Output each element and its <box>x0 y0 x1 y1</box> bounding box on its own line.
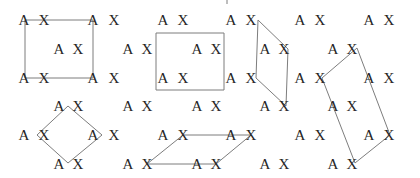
figure-canvas: AAAAAAXXXXXXAAAAAXXXXXAAAAAAXXXXXXAAAAAX… <box>0 0 420 178</box>
grid-letter-x: X <box>73 99 84 114</box>
grid-letter-a: A <box>364 71 375 86</box>
grid-letter-x: X <box>178 128 189 143</box>
grid-letter-x: X <box>347 99 358 114</box>
grid-letter-a: A <box>158 13 169 28</box>
grid-letter-a: A <box>54 157 65 172</box>
grid-letter-x: X <box>178 71 189 86</box>
grid-letter-x: X <box>109 13 120 28</box>
grid-letter-a: A <box>260 42 271 57</box>
grid-letter-a: A <box>192 42 203 57</box>
grid-letter-a: A <box>123 99 134 114</box>
grid-letter-x: X <box>142 42 153 57</box>
grid-letter-a: A <box>226 71 237 86</box>
grid-letter-a: A <box>364 128 375 143</box>
grid-letter-a: A <box>19 71 30 86</box>
grid-letter-x: X <box>347 42 358 57</box>
grid-letter-a: A <box>364 13 375 28</box>
grid-letter-a: A <box>123 157 134 172</box>
shape-narrow-parallelogram <box>256 20 288 106</box>
grid-letter-x: X <box>73 42 84 57</box>
grid-letter-x: X <box>109 128 120 143</box>
grid-letter-x: X <box>142 157 153 172</box>
grid-letter-x: X <box>142 99 153 114</box>
grid-letter-x: X <box>211 99 222 114</box>
grid-letter-x: X <box>109 71 120 86</box>
grid-letter-x: X <box>384 71 395 86</box>
grid-letter-a: A <box>88 128 99 143</box>
grid-letter-a: A <box>158 71 169 86</box>
grid-letter-x: X <box>39 128 50 143</box>
grid-letter-a: A <box>88 71 99 86</box>
grid-letter-a: A <box>328 99 339 114</box>
grid-letter-x: X <box>246 13 257 28</box>
grid-letter-x: X <box>315 128 326 143</box>
grid-letter-a: A <box>54 42 65 57</box>
grid-letter-x: X <box>315 71 326 86</box>
grid-letter-a: A <box>192 99 203 114</box>
grid-letter-a: A <box>123 42 134 57</box>
grid-letter-x: X <box>39 71 50 86</box>
grid-letter-a: A <box>226 13 237 28</box>
grid-letter-a: A <box>328 157 339 172</box>
grid-letter-x: X <box>73 157 84 172</box>
grid-letter-x: X <box>279 42 290 57</box>
grid-letter-x: X <box>211 42 222 57</box>
grid-letter-x: X <box>178 13 189 28</box>
grid-letter-x: X <box>246 71 257 86</box>
grid-letter-x: X <box>279 99 290 114</box>
grid-letter-a: A <box>19 13 30 28</box>
grid-letter-a: A <box>328 42 339 57</box>
shape-layer <box>0 0 420 178</box>
grid-letter-a: A <box>226 128 237 143</box>
grid-letter-x: X <box>384 128 395 143</box>
grid-letter-a: A <box>19 128 30 143</box>
grid-letter-x: X <box>246 128 257 143</box>
grid-letter-a: A <box>295 13 306 28</box>
grid-letter-x: X <box>211 157 222 172</box>
grid-letter-x: X <box>39 13 50 28</box>
grid-letter-a: A <box>54 99 65 114</box>
grid-letter-a: A <box>192 157 203 172</box>
grid-letter-a: A <box>260 157 271 172</box>
grid-letter-x: X <box>347 157 358 172</box>
grid-letter-x: X <box>315 13 326 28</box>
grid-letter-a: A <box>158 128 169 143</box>
grid-letter-x: X <box>279 157 290 172</box>
grid-letter-a: A <box>295 128 306 143</box>
grid-letter-a: A <box>88 13 99 28</box>
grid-letter-x: X <box>384 13 395 28</box>
grid-letter-a: A <box>295 71 306 86</box>
grid-letter-a: A <box>260 99 271 114</box>
